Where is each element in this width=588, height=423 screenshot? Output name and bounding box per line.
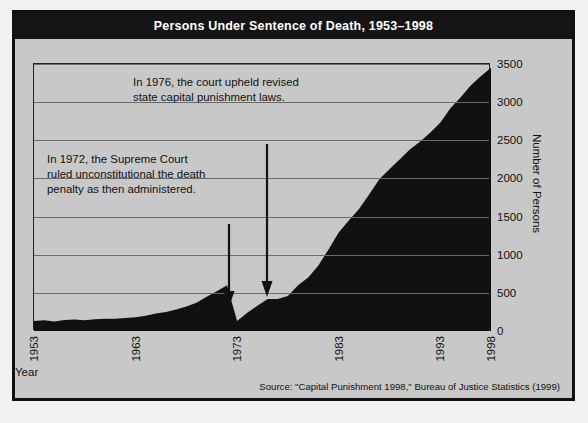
x-axis-tick-label: 1983	[333, 336, 345, 362]
y-axis-tick-label: 2000	[497, 172, 523, 184]
x-axis-tick-label: 1998	[485, 336, 497, 362]
chart-title-bar: Persons Under Sentence of Death, 1953–19…	[15, 13, 572, 39]
y-axis-tick-label: 0	[497, 325, 503, 337]
page-title: Persons Under Sentence of Death, 1953–19…	[154, 19, 433, 33]
x-axis-label: Year	[15, 366, 38, 378]
chart-figure: Persons Under Sentence of Death, 1953–19…	[12, 10, 575, 401]
y-axis-tick-label: 1500	[497, 211, 523, 223]
source-note: Source: "Capital Punishment 1998," Burea…	[259, 381, 560, 392]
y-axis-tick-label: 3000	[497, 96, 523, 108]
y-axis-tick-label: 3500	[497, 58, 523, 70]
x-axis-tick-label: 1953	[28, 336, 40, 362]
x-axis-tick-label: 1963	[130, 336, 142, 362]
y-axis-tick-label: 1000	[497, 249, 523, 261]
x-axis-tick-label: 1993	[434, 336, 446, 362]
x-axis-tick-label: 1973	[231, 336, 243, 362]
plot-wrapper: 0500100015002000250030003500195319631973…	[15, 39, 572, 398]
y-axis-tick-label: 2500	[497, 134, 523, 146]
y-axis-label: Number of Persons	[531, 134, 543, 233]
arrow-1976-icon	[15, 39, 472, 339]
y-axis-tick-label: 500	[497, 287, 516, 299]
